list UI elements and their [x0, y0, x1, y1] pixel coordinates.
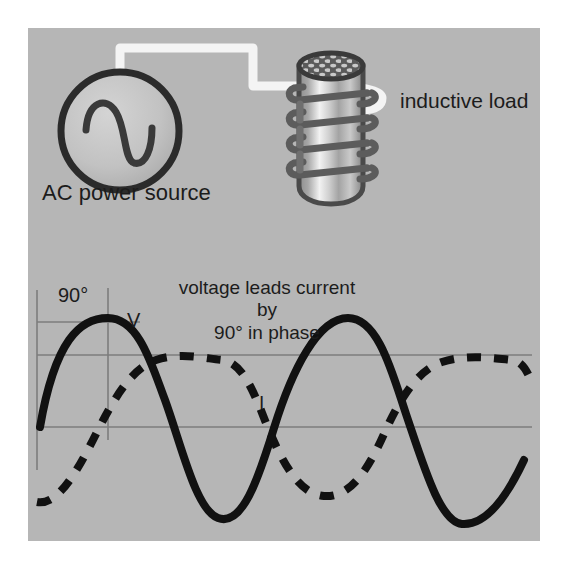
current-waveform	[37, 356, 532, 502]
phase-angle-annotation: 90°	[58, 285, 88, 307]
ac-power-source-symbol	[61, 72, 179, 190]
caption-line-2: by	[152, 299, 382, 321]
current-curve-label: I	[259, 393, 264, 414]
caption-line-1: voltage leads current	[152, 277, 382, 299]
inductive-load-symbol	[289, 53, 375, 204]
ac-power-source-label: AC power source	[42, 181, 211, 205]
caption-line-3: 90° in phase	[152, 322, 382, 344]
voltage-curve-label: V	[127, 310, 140, 332]
graph-caption: voltage leads current by 90° in phase	[152, 277, 382, 344]
voltage-waveform	[40, 318, 524, 524]
laminated-core-top	[299, 53, 363, 79]
figure-root: AC power source inductive load 90° V I v…	[0, 0, 562, 563]
core-body	[299, 66, 363, 204]
inductive-load-label: inductive load	[400, 90, 528, 113]
